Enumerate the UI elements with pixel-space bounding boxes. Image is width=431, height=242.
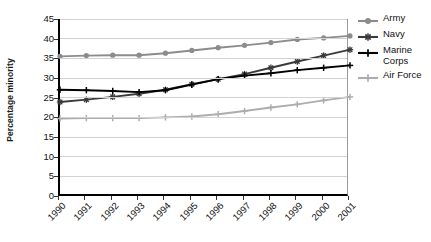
legend-label: Marine Corps xyxy=(383,44,431,66)
y-axis-tick-mark xyxy=(54,78,58,79)
chart-screenshot: Percentage minority 051015202530354045 1… xyxy=(0,0,431,242)
chart-legend: ArmyNavyMarine CorpsAir Force xyxy=(357,12,431,85)
y-axis-tick-mark xyxy=(54,39,58,40)
legend-item[interactable]: Air Force xyxy=(357,69,431,82)
x-axis-tick-mark xyxy=(163,196,164,200)
x-axis-tick-mark xyxy=(84,196,85,200)
y-axis-tick-mark xyxy=(54,98,58,99)
y-axis-tick-mark xyxy=(54,176,58,177)
x-axis-tick-mark xyxy=(190,196,191,200)
legend-marker-icon xyxy=(357,29,379,41)
y-axis-tick-mark xyxy=(54,58,58,59)
x-axis-tick-mark xyxy=(137,196,138,200)
x-axis-tick-mark xyxy=(243,196,244,200)
y-axis-tick-mark xyxy=(54,117,58,118)
legend-label: Navy xyxy=(383,28,405,39)
x-axis-tick-mark xyxy=(111,196,112,200)
y-axis-tick-mark xyxy=(54,19,58,20)
x-axis-tick-mark xyxy=(348,196,349,200)
x-axis-tick-mark xyxy=(269,196,270,200)
legend-label: Army xyxy=(383,12,405,23)
legend-marker-icon xyxy=(357,45,379,57)
legend-marker-icon xyxy=(357,13,379,25)
x-axis-tick-mark xyxy=(295,196,296,200)
y-axis-tick-mark xyxy=(54,137,58,138)
legend-label: Air Force xyxy=(383,69,422,80)
y-axis-tick-mark xyxy=(54,157,58,158)
x-axis-tick-mark xyxy=(58,196,59,200)
x-axis-tick-mark xyxy=(216,196,217,200)
legend-item[interactable]: Navy xyxy=(357,28,431,41)
legend-item[interactable]: Army xyxy=(357,12,431,25)
legend-marker-icon xyxy=(357,70,379,82)
legend-item[interactable]: Marine Corps xyxy=(357,44,431,66)
x-axis-tick-mark xyxy=(322,196,323,200)
